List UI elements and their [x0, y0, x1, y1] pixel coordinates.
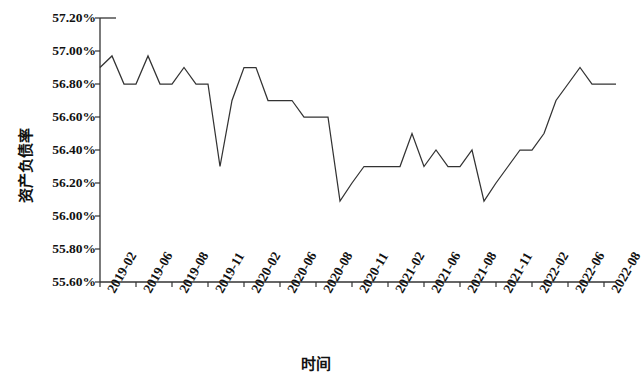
x-tick-label: 2022-02: [536, 249, 572, 296]
x-tick-label: 2019-06: [140, 249, 176, 296]
x-tick-label: 2022-08: [608, 249, 644, 296]
x-tick-label: 2020-11: [356, 250, 392, 296]
x-tick-label: 2021-02: [392, 249, 428, 296]
x-tick-label: 2019-08: [176, 249, 212, 296]
x-tick-label: 2021-08: [464, 249, 500, 296]
x-tick-label: 2020-02: [248, 249, 284, 296]
x-tick-label: 2020-08: [320, 249, 356, 296]
x-tick-label: 2021-06: [428, 249, 464, 296]
x-tick-label: 2021-11: [500, 250, 536, 296]
x-tick-label: 2022-06: [572, 249, 608, 296]
x-tick-label: 2019-11: [212, 250, 248, 296]
x-tick-label: 2019-02: [104, 249, 140, 296]
x-tick-label: 2020-06: [284, 249, 320, 296]
